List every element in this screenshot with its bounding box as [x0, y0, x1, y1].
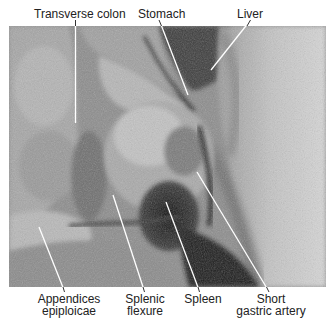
label-text: Stomach — [138, 8, 184, 20]
label-spleen: Spleen — [182, 293, 224, 305]
photo-tones — [9, 26, 326, 287]
label-line-2: gastric artery — [234, 305, 308, 317]
label-liver: Liver — [234, 8, 266, 20]
label-line-1: Spleen — [182, 293, 224, 305]
label-appendices-epiploicae: Appendices epiploicae — [34, 293, 104, 317]
label-splenic-flexure: Splenic flexure — [122, 293, 168, 317]
label-short-gastric-artery: Short gastric artery — [234, 293, 308, 317]
label-line-2: flexure — [122, 305, 168, 317]
dissection-photo — [9, 26, 326, 287]
label-text: Liver — [234, 8, 266, 20]
label-transverse-colon: Transverse colon — [34, 8, 118, 20]
label-text: Transverse colon — [34, 8, 118, 20]
label-stomach: Stomach — [138, 8, 184, 20]
figure-caption-clipped — [28, 321, 128, 325]
label-line-2: epiploicae — [34, 305, 104, 317]
anatomy-figure: Transverse colon Stomach Liver Appendice… — [0, 0, 336, 325]
